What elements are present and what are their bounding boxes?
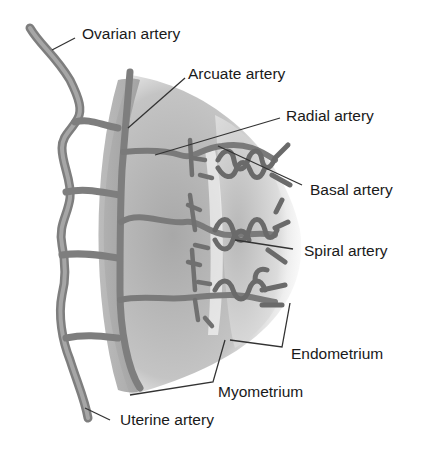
label-myometrium: Myometrium <box>218 384 303 400</box>
label-radial-artery: Radial artery <box>286 108 374 124</box>
leader-ovarian <box>52 38 75 50</box>
label-spiral-artery: Spiral artery <box>304 243 388 259</box>
label-arcuate-artery: Arcuate artery <box>188 66 285 82</box>
label-uterine-artery: Uterine artery <box>120 412 214 428</box>
label-endometrium: Endometrium <box>291 346 383 362</box>
label-basal-artery: Basal artery <box>310 182 393 198</box>
label-ovarian-artery: Ovarian artery <box>82 26 180 42</box>
